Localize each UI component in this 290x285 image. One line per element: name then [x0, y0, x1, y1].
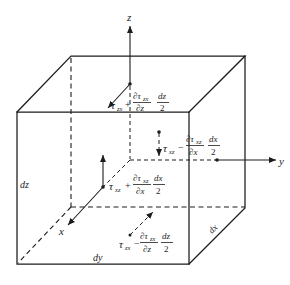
- bottom-tau-sub: zx: [124, 244, 131, 251]
- back-den: ∂x: [189, 147, 197, 157]
- front-tau: τ: [109, 180, 114, 192]
- front-num: ∂τ: [133, 173, 141, 183]
- dz-label: dz: [20, 179, 29, 190]
- front-sign: +: [125, 180, 131, 191]
- bottom-num: ∂τ: [140, 231, 148, 241]
- front-den: ∂x: [136, 186, 144, 196]
- front-half-num: dx: [154, 173, 163, 183]
- y-axis-label: y: [278, 155, 284, 167]
- bottom-den: ∂z: [143, 244, 151, 254]
- stress-top-face: τ zx + ∂τ zx ∂z dz 2: [108, 82, 169, 113]
- bottom-half-den: 2: [164, 244, 169, 254]
- top-num-sub: zx: [142, 95, 149, 102]
- z-axis-label: z: [126, 11, 132, 23]
- top-num: ∂τ: [133, 91, 141, 101]
- front-num-sub: xz: [142, 177, 149, 184]
- back-num: ∂τ: [186, 134, 194, 144]
- x-axis-arrow: [68, 187, 103, 225]
- stress-element-diagram: z y x dz dy dx τ zx + ∂τ zx ∂z dz 2 τ xz…: [0, 0, 290, 285]
- back-half-num: dx: [209, 134, 218, 144]
- front-half-den: 2: [156, 186, 161, 196]
- top-half-num: dz: [158, 91, 167, 101]
- stress-front-face: τ xz + ∂τ xz ∂x dx 2: [101, 155, 165, 196]
- back-num-sub: xz: [195, 138, 202, 145]
- bottom-tau: τ: [119, 238, 124, 250]
- coordinate-axes: z y x: [58, 11, 284, 237]
- top-half-den: 2: [160, 103, 165, 113]
- stress-bottom-face: τ zx − ∂τ zx ∂z dz 2: [119, 212, 173, 254]
- front-tau-sub: xz: [114, 186, 121, 193]
- back-half-den: 2: [211, 147, 216, 157]
- x-axis-label: x: [58, 225, 64, 237]
- back-sign: −: [178, 142, 184, 153]
- top-den: ∂z: [136, 103, 144, 113]
- right-face-center-dot: [215, 158, 219, 162]
- dy-label: dy: [93, 252, 103, 263]
- top-sign: +: [125, 99, 131, 110]
- back-tau: τ: [163, 142, 168, 154]
- bottom-num-sub: zx: [149, 235, 156, 242]
- dx-label: dx: [206, 222, 219, 235]
- top-tau-sub: zx: [116, 105, 123, 112]
- back-tau-sub: xz: [168, 148, 175, 155]
- bottom-half-num: dz: [162, 231, 171, 241]
